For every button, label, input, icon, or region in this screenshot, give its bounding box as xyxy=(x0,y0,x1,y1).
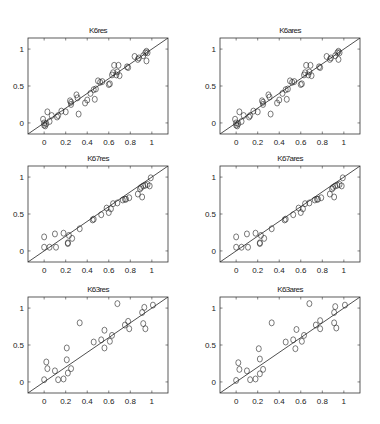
scatter-panel-k63res: K63res00.20.40.60.8100.51 xyxy=(13,285,168,406)
x-tick-label: 0.6 xyxy=(103,266,115,275)
y-tick-label: 1 xyxy=(212,304,217,313)
x-tick-label: 0.8 xyxy=(125,138,137,147)
x-tick-label: 0.6 xyxy=(103,138,115,147)
y-tick-label: 0 xyxy=(20,247,25,256)
x-tick-label: 0 xyxy=(234,397,239,406)
x-tick-label: 0 xyxy=(234,138,239,147)
y-tick-label: 0.5 xyxy=(205,341,217,350)
x-tick-label: 0.6 xyxy=(103,397,115,406)
y-tick-label: 1 xyxy=(20,45,25,54)
y-tick-label: 1 xyxy=(212,173,217,182)
panel-title: K63ares xyxy=(277,285,303,294)
x-tick-label: 0.4 xyxy=(274,266,286,275)
x-tick-label: 0.6 xyxy=(295,266,307,275)
panel-title: K6res xyxy=(89,26,107,35)
scatter-panel-k63ares: K63ares00.20.40.60.8100.51 xyxy=(205,285,360,406)
y-tick-label: 0 xyxy=(212,247,217,256)
x-tick-label: 0.4 xyxy=(82,397,94,406)
y-tick-label: 0.5 xyxy=(205,210,217,219)
x-tick-label: 0 xyxy=(42,138,47,147)
x-tick-label: 0.4 xyxy=(274,138,286,147)
y-tick-label: 0 xyxy=(20,378,25,387)
x-tick-label: 1 xyxy=(342,397,347,406)
x-tick-label: 0.2 xyxy=(60,397,72,406)
x-tick-label: 0 xyxy=(42,266,47,275)
y-tick-label: 1 xyxy=(212,45,217,54)
scatter-panel-k67ares: K67ares00.20.40.60.8100.51 xyxy=(205,154,360,275)
x-tick-label: 0.2 xyxy=(252,138,264,147)
x-tick-label: 0.2 xyxy=(252,266,264,275)
x-tick-label: 1 xyxy=(150,138,155,147)
x-tick-label: 0 xyxy=(234,266,239,275)
y-tick-label: 0.5 xyxy=(13,341,25,350)
x-tick-label: 0.8 xyxy=(317,266,329,275)
y-tick-label: 0.5 xyxy=(205,82,217,91)
x-tick-label: 0.4 xyxy=(82,138,94,147)
y-tick-label: 0.5 xyxy=(13,82,25,91)
panel-title: K67ares xyxy=(277,154,303,163)
x-tick-label: 1 xyxy=(342,266,347,275)
x-tick-label: 0.2 xyxy=(60,266,72,275)
x-tick-label: 0.8 xyxy=(317,397,329,406)
y-tick-label: 0.5 xyxy=(13,210,25,219)
x-tick-label: 0.2 xyxy=(252,397,264,406)
y-tick-label: 0 xyxy=(212,378,217,387)
x-tick-label: 0.8 xyxy=(125,397,137,406)
y-tick-label: 1 xyxy=(20,173,25,182)
subplot-grid: K6res00.20.40.60.8100.51K6ares00.20.40.6… xyxy=(13,26,360,406)
x-tick-label: 0.6 xyxy=(295,397,307,406)
x-tick-label: 0.8 xyxy=(317,138,329,147)
x-tick-label: 0.8 xyxy=(125,266,137,275)
scatter-panel-k6res: K6res00.20.40.60.8100.51 xyxy=(13,26,168,147)
x-tick-label: 1 xyxy=(342,138,347,147)
panel-title: K6ares xyxy=(279,26,301,35)
x-tick-label: 0 xyxy=(42,397,47,406)
y-tick-label: 0 xyxy=(20,119,25,128)
x-tick-label: 0.4 xyxy=(274,397,286,406)
x-tick-label: 0.6 xyxy=(295,138,307,147)
x-tick-label: 1 xyxy=(150,397,155,406)
scatter-panel-k67res: K67res00.20.40.60.8100.51 xyxy=(13,154,168,275)
panel-title: K67res xyxy=(87,154,109,163)
y-tick-label: 0 xyxy=(212,119,217,128)
panel-title: K63res xyxy=(87,285,109,294)
x-tick-label: 1 xyxy=(150,266,155,275)
figure-canvas: K6res00.20.40.60.8100.51K6ares00.20.40.6… xyxy=(0,0,380,424)
x-tick-label: 0.4 xyxy=(82,266,94,275)
x-tick-label: 0.2 xyxy=(60,138,72,147)
y-tick-label: 1 xyxy=(20,304,25,313)
scatter-panel-k6ares: K6ares00.20.40.60.8100.51 xyxy=(205,26,360,147)
